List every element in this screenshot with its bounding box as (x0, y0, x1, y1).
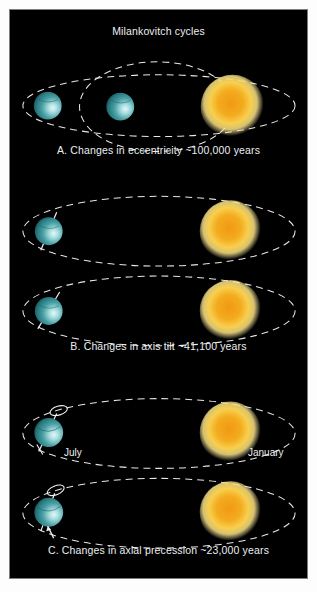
earth-a-far (34, 92, 62, 120)
earth-b-row2 (35, 292, 63, 329)
sun-c-row2 (200, 481, 262, 543)
caption-panel-b: B. Changes in axis tilt ~41,100 years (10, 340, 307, 352)
sun-b-row2 (200, 280, 262, 342)
diagram-panel: Milankovitch cycles A. Changes in eccent… (9, 9, 308, 579)
season-label-july: July (64, 447, 82, 458)
panel-b-row2-group (23, 276, 295, 346)
panel-c-row2-group (23, 478, 295, 548)
sun-b-row1 (200, 200, 262, 262)
figure-title: Milankovitch cycles (10, 25, 307, 37)
earth-a-near (106, 93, 134, 121)
caption-panel-c: C. Changes in axial precession ~23,000 y… (10, 544, 307, 556)
precession-loop-row1 (49, 404, 69, 418)
panel-a-group (23, 62, 295, 152)
earth-b-row1 (35, 212, 63, 250)
panel-b-row1-group (23, 196, 295, 266)
sun-a (201, 75, 265, 139)
caption-panel-a: A. Changes in eccentricity ~100,000 year… (10, 144, 307, 156)
diagram-canvas (10, 10, 307, 578)
season-label-january: January (248, 447, 284, 458)
milankovitch-figure: Milankovitch cycles A. Changes in eccent… (0, 0, 317, 592)
